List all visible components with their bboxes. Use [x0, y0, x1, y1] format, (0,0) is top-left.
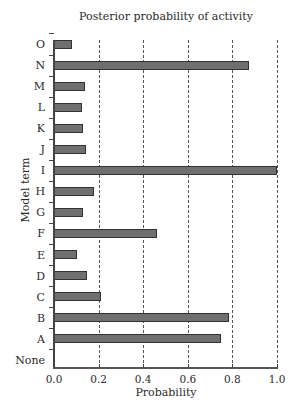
bar-d: [54, 271, 87, 280]
x-axis-label: Probability: [54, 386, 278, 399]
category-label: I: [41, 164, 45, 177]
y-tick: [49, 33, 54, 34]
x-axis: [53, 367, 278, 369]
category-label: D: [36, 269, 45, 282]
category-label: M: [34, 80, 45, 93]
category-label: B: [37, 311, 45, 324]
bar-n: [54, 61, 249, 70]
category-label: K: [37, 122, 45, 135]
x-tick: [277, 364, 278, 368]
category-label: O: [36, 38, 45, 51]
bar-f: [54, 229, 157, 238]
bar-o: [54, 40, 72, 49]
category-label: N: [35, 59, 45, 72]
x-tick: [143, 364, 144, 368]
bar-b: [54, 313, 229, 322]
x-tick-label: 1.0: [269, 373, 286, 385]
x-tick: [232, 364, 233, 368]
chart-title: Posterior probability of activity: [54, 10, 278, 23]
x-tick-label: 0.4: [135, 373, 152, 385]
bar-l: [54, 103, 82, 112]
gridline-1.0: [277, 40, 278, 368]
bar-e: [54, 250, 77, 259]
category-label: H: [35, 185, 45, 198]
category-label: None: [15, 353, 45, 366]
bar-j: [54, 145, 86, 154]
x-tick: [54, 364, 55, 368]
category-label: J: [41, 143, 45, 156]
bar-i: [54, 166, 277, 175]
bar-m: [54, 82, 85, 91]
category-label: E: [37, 248, 45, 261]
x-tick: [99, 364, 100, 368]
category-label: L: [38, 101, 45, 114]
bar-g: [54, 208, 83, 217]
x-tick-label: 0.8: [224, 373, 241, 385]
gridline-0.8: [232, 40, 233, 368]
category-label: C: [37, 290, 45, 303]
bar-c: [54, 292, 101, 301]
category-label: G: [36, 206, 45, 219]
y-axis: [53, 40, 55, 369]
x-tick-label: 0.0: [46, 373, 63, 385]
category-label: A: [37, 332, 45, 345]
x-tick: [188, 364, 189, 368]
y-axis-label: Model term: [19, 157, 32, 222]
bar-k: [54, 124, 83, 133]
x-tick-label: 0.2: [90, 373, 107, 385]
bar-h: [54, 187, 94, 196]
x-tick-label: 0.6: [179, 373, 196, 385]
bar-a: [54, 334, 221, 343]
category-label: F: [37, 227, 45, 240]
